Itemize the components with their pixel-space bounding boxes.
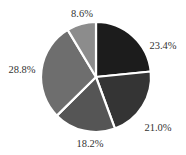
pie-chart: 23.4%21.0%18.2%28.8%8.6% [0,0,186,155]
pie-slice [96,22,151,77]
pie-slices [41,22,151,132]
slice-percentage-label: 28.8% [8,64,35,75]
slice-percentage-label: 21.0% [144,122,171,133]
slice-percentage-label: 23.4% [149,40,176,51]
slice-percentage-label: 8.6% [71,8,93,19]
slice-percentage-label: 18.2% [76,138,103,149]
